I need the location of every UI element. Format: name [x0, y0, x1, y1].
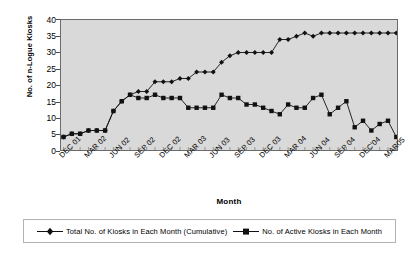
- data-point-marker: [252, 50, 257, 55]
- data-point-marker: [286, 37, 291, 42]
- data-point-marker: [202, 70, 207, 75]
- data-point-marker: [319, 93, 323, 97]
- data-point-marker: [319, 31, 324, 36]
- data-point-marker: [194, 106, 198, 110]
- y-tick-label: 30: [34, 48, 56, 57]
- series-line: [64, 33, 397, 137]
- data-point-marker: [336, 106, 340, 110]
- x-axis-title: Month: [60, 197, 398, 206]
- data-point-marker: [244, 102, 248, 106]
- data-point-marker: [385, 31, 390, 36]
- data-point-marker: [244, 50, 249, 55]
- data-point-marker: [344, 99, 348, 103]
- series-active: [61, 93, 397, 143]
- plot-area: [60, 19, 398, 151]
- data-point-marker: [177, 76, 182, 81]
- legend-label-total: Total No. of Kiosks in Each Month (Cumul…: [66, 227, 227, 236]
- data-point-marker: [261, 50, 266, 55]
- data-point-marker: [111, 109, 115, 113]
- data-point-marker: [153, 93, 157, 97]
- y-tick-label: 35: [34, 32, 56, 41]
- y-tick-label: 10: [34, 114, 56, 123]
- square-marker-icon: [233, 227, 259, 236]
- y-tick-label: 20: [34, 81, 56, 90]
- data-point-marker: [369, 31, 374, 36]
- data-point-marker: [103, 128, 107, 132]
- data-point-marker: [386, 119, 390, 123]
- y-tick-label: 25: [34, 65, 56, 74]
- data-point-marker: [161, 79, 166, 84]
- data-point-marker: [352, 31, 357, 36]
- chart-figure: No. of n-Logue Kiosks 40 35 30 25 20 15 …: [0, 0, 419, 253]
- data-point-marker: [269, 109, 273, 113]
- y-tick-label: 40: [34, 16, 56, 25]
- legend-entry-active: No. of Active Kiosks in Each Month: [233, 227, 382, 236]
- data-point-marker: [361, 119, 365, 123]
- data-point-marker: [253, 102, 257, 106]
- data-point-marker: [278, 112, 282, 116]
- data-point-marker: [186, 106, 190, 110]
- data-point-marker: [120, 99, 124, 103]
- data-point-marker: [377, 122, 381, 126]
- y-tick-label: 0: [34, 147, 56, 156]
- data-point-marker: [169, 96, 173, 100]
- data-point-marker: [303, 106, 307, 110]
- data-point-marker: [86, 128, 90, 132]
- data-point-marker: [311, 34, 316, 39]
- chart-legend: Total No. of Kiosks in Each Month (Cumul…: [23, 219, 396, 243]
- data-point-marker: [336, 31, 341, 36]
- data-point-marker: [203, 106, 207, 110]
- data-point-marker: [161, 96, 165, 100]
- diamond-marker-icon: [37, 227, 63, 236]
- data-point-marker: [277, 37, 282, 42]
- y-tick-label: 5: [34, 130, 56, 139]
- data-point-marker: [136, 89, 141, 94]
- data-point-marker: [286, 102, 290, 106]
- data-point-marker: [311, 96, 315, 100]
- data-point-marker: [353, 125, 357, 129]
- legend-label-active: No. of Active Kiosks in Each Month: [262, 227, 382, 236]
- data-point-marker: [327, 31, 332, 36]
- data-point-marker: [344, 31, 349, 36]
- data-point-marker: [369, 128, 373, 132]
- data-point-marker: [294, 34, 299, 39]
- y-axis-title: No. of n-Logue Kiosks: [25, 0, 34, 132]
- data-point-marker: [61, 135, 65, 139]
- data-point-marker: [211, 106, 215, 110]
- data-point-marker: [328, 112, 332, 116]
- data-point-marker: [261, 106, 265, 110]
- data-point-marker: [128, 93, 132, 97]
- data-point-marker: [145, 96, 149, 100]
- series-canvas: [61, 20, 397, 150]
- data-point-marker: [361, 31, 366, 36]
- data-point-marker: [236, 96, 240, 100]
- data-point-marker: [169, 79, 174, 84]
- data-point-marker: [136, 96, 140, 100]
- data-point-marker: [269, 50, 274, 55]
- data-point-marker: [95, 128, 99, 132]
- data-point-marker: [294, 106, 298, 110]
- data-point-marker: [178, 96, 182, 100]
- series-total-cumulative: [61, 31, 397, 140]
- data-point-marker: [302, 31, 307, 36]
- data-point-marker: [78, 132, 82, 136]
- data-point-marker: [236, 50, 241, 55]
- legend-entry-total: Total No. of Kiosks in Each Month (Cumul…: [37, 227, 227, 236]
- data-point-marker: [219, 93, 223, 97]
- y-tick-label: 15: [34, 98, 56, 107]
- data-point-marker: [394, 31, 397, 36]
- data-point-marker: [377, 31, 382, 36]
- data-point-marker: [228, 96, 232, 100]
